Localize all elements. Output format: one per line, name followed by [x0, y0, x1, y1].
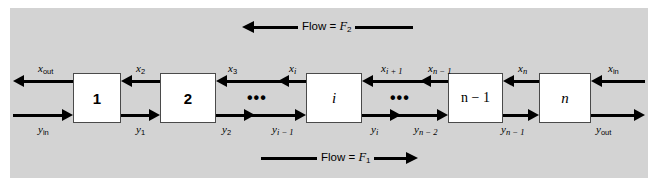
stage-label-i: i — [332, 91, 336, 106]
countercurrent-cascade-diagram: Flow = F2 Flow = F1 1 2 i n − 1 n ••• ••… — [0, 0, 660, 190]
bottom-flow-annotation: Flow = F1 — [261, 151, 418, 165]
y-arrow-shaft-in — [13, 114, 62, 117]
x-arrow-shaft-i — [289, 80, 306, 83]
stage-box-n-minus-1[interactable]: n − 1 — [448, 73, 503, 123]
y-arrow-head-in-icon — [62, 109, 73, 121]
bottom-flow-bar-left — [261, 157, 317, 160]
top-flow-bar-left — [254, 26, 298, 29]
x-arrow-head-n-icon — [503, 75, 514, 87]
x-arrow-head-i-icon — [278, 75, 289, 87]
y-label-out: yout — [596, 124, 611, 137]
ellipsis-2: ••• — [390, 90, 410, 106]
x-label-out: xout — [38, 63, 53, 76]
y-label-2: y2 — [222, 124, 231, 137]
bottom-flow-symbol: F — [358, 150, 366, 164]
x-arrow-shaft-3 — [227, 80, 283, 83]
x-arrow-head-n-minus-1-icon — [420, 75, 431, 87]
top-flow-label: Flow = F2 — [298, 20, 355, 34]
y-label-n-minus-1: yn − 1 — [501, 124, 524, 137]
bottom-flow-arrowhead-icon — [406, 152, 418, 164]
x-arrow-head-3-icon — [216, 75, 227, 87]
top-flow-symbol: F — [339, 19, 347, 33]
stage-label-1: 1 — [93, 91, 101, 106]
y-arrow-shaft-2 — [216, 114, 244, 117]
y-arrow-head-1-icon — [149, 109, 160, 121]
top-flow-arrowhead-icon — [242, 21, 254, 33]
y-label-n-minus-2: yn − 2 — [414, 124, 437, 137]
y-arrow-head-out-icon — [634, 109, 645, 121]
y-arrow-shaft-out — [591, 114, 634, 117]
top-flow-subscript: 2 — [347, 25, 351, 34]
y-arrow-shaft-1 — [121, 114, 149, 117]
top-flow-label-text: Flow = — [302, 20, 339, 32]
y-arrow-head-n-minus-2-icon — [437, 109, 448, 121]
bottom-flow-bar-right — [374, 157, 406, 160]
stage-label-n-minus-1: n − 1 — [461, 91, 490, 105]
stage-box-i[interactable]: i — [306, 73, 362, 123]
x-arrow-head-in-icon — [591, 75, 602, 87]
x-arrow-shaft-in — [602, 80, 645, 83]
x-arrow-head-out-icon — [13, 75, 24, 87]
y-arrow-shaft-i-minus-1 — [250, 114, 295, 117]
x-arrow-shaft-out — [24, 80, 73, 83]
y-arrow-head-2-icon — [244, 109, 255, 121]
x-label-3: x3 — [228, 63, 237, 76]
x-label-in: xin — [608, 63, 619, 76]
bottom-flow-label-text: Flow = — [321, 151, 358, 163]
x-arrow-shaft-2 — [132, 80, 160, 83]
y-label-i: yi — [371, 124, 378, 137]
y-label-in: yin — [38, 124, 49, 137]
x-label-n: xn — [518, 63, 527, 76]
top-flow-annotation: Flow = F2 — [242, 20, 413, 34]
stage-label-n: n — [561, 91, 569, 106]
x-label-n-minus-1: xn − 1 — [428, 63, 451, 76]
x-arrow-shaft-n-minus-1 — [431, 80, 448, 83]
stage-box-1[interactable]: 1 — [73, 73, 121, 123]
stage-label-2: 2 — [184, 91, 192, 106]
x-label-2: x2 — [136, 63, 145, 76]
x-arrow-head-2-icon — [121, 75, 132, 87]
y-arrow-head-n-minus-1-icon — [528, 109, 539, 121]
x-arrow-head-i-plus-1-icon — [362, 75, 373, 87]
y-label-i-minus-1: yi − 1 — [272, 124, 294, 137]
y-arrow-shaft-i — [362, 114, 390, 117]
bottom-flow-subscript: 1 — [366, 156, 370, 165]
y-label-1: y1 — [136, 124, 145, 137]
x-label-i: xi — [289, 63, 296, 76]
y-arrow-head-i-minus-1-icon — [295, 109, 306, 121]
stage-box-2[interactable]: 2 — [160, 73, 216, 123]
y-arrow-shaft-n-minus-1 — [503, 114, 528, 117]
y-arrow-head-i-icon — [390, 109, 401, 121]
bottom-flow-label: Flow = F1 — [317, 151, 374, 165]
x-label-i-plus-1: xi + 1 — [381, 63, 403, 76]
stage-box-n[interactable]: n — [539, 73, 591, 123]
top-flow-bar-right — [355, 26, 413, 29]
ellipsis-1: ••• — [247, 90, 267, 106]
x-arrow-shaft-n — [514, 80, 539, 83]
